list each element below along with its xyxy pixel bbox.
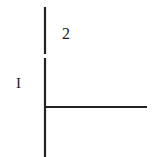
line-diagram-figure: I 2 [0,0,160,157]
diagram-canvas [0,0,160,157]
vertical-upper-label: 2 [62,26,70,42]
vertical-lower-label: I [16,76,21,91]
